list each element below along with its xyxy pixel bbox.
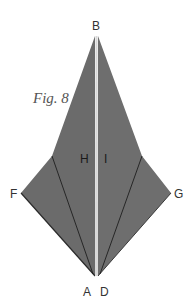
label-i: I: [104, 152, 107, 166]
label-f: F: [10, 187, 17, 201]
label-g: G: [174, 187, 183, 201]
label-h: H: [80, 152, 89, 166]
figure-caption: Fig. 8: [32, 90, 69, 106]
center-strip: [95, 36, 98, 276]
label-a: A: [83, 285, 91, 299]
label-b: B: [92, 19, 100, 33]
label-d: D: [100, 285, 109, 299]
right-flap-shape: [98, 36, 171, 276]
origami-diagram: B Fig. 8 H I F G A D: [0, 0, 192, 300]
